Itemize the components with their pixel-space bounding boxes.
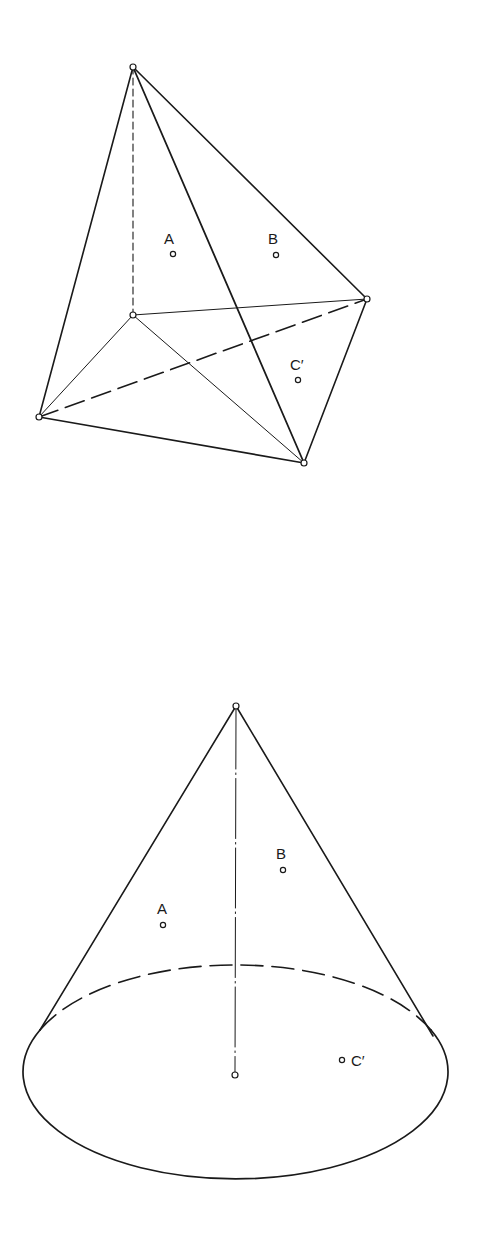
point-b <box>273 252 278 257</box>
label-a: A <box>164 230 174 247</box>
vertex-left <box>36 414 42 420</box>
cone-apex <box>233 703 239 709</box>
cone-figure <box>23 703 448 1179</box>
cone-point-b <box>280 867 285 872</box>
vertex-inner <box>130 312 136 318</box>
pyramid-figure <box>36 64 370 466</box>
cone-point-c <box>339 1057 344 1062</box>
edge-apex-bottom <box>133 67 304 463</box>
cone-label-b: B <box>276 845 286 862</box>
cone-right-side <box>236 706 433 1036</box>
edge-inner-bottom <box>133 315 304 463</box>
vertex-bottom-point <box>301 460 307 466</box>
point-c <box>295 377 300 382</box>
cone-point-a <box>160 922 165 927</box>
edge-apex-left <box>39 67 133 417</box>
vertex-right <box>364 296 370 302</box>
edge-apex-right <box>133 67 367 299</box>
cone-left-side <box>40 706 236 1030</box>
vertex-apex <box>130 64 136 70</box>
label-b: B <box>268 230 278 247</box>
cone-base-center <box>232 1072 238 1078</box>
point-a <box>170 251 175 256</box>
edge-right-bottom <box>304 299 367 463</box>
cone-label-a: A <box>157 900 167 917</box>
cone-label-c: C′ <box>351 1052 365 1069</box>
edge-inner-right <box>133 299 367 315</box>
label-c: C′ <box>290 356 304 373</box>
hidden-edge-left-right <box>39 299 367 417</box>
edge-left-bottom <box>39 417 304 463</box>
cone-axis <box>235 709 236 1072</box>
diagram-canvas: A B C′ A B C′ <box>0 0 502 1234</box>
